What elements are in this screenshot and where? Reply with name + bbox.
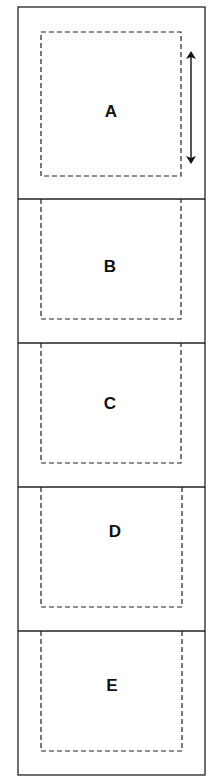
panel-label-b: B xyxy=(104,257,116,276)
panel-stack-diagram: A B C D E xyxy=(0,0,219,784)
panel-label-e: E xyxy=(106,676,117,695)
panel-label-a: A xyxy=(105,102,117,121)
panel-label-c: C xyxy=(104,394,116,413)
outer-frame xyxy=(18,7,205,775)
panel-label-d: D xyxy=(109,522,121,541)
